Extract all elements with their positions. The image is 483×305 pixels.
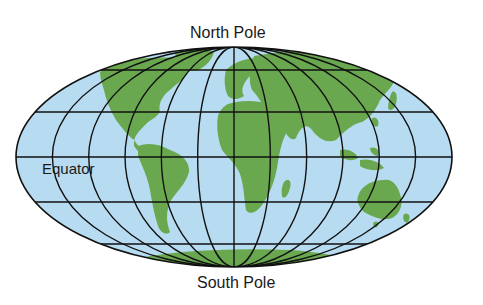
world-map	[0, 0, 483, 305]
south-pole-label: South Pole	[197, 274, 275, 292]
north-pole-label: North Pole	[190, 24, 266, 42]
equator-label: Equator	[42, 160, 95, 177]
